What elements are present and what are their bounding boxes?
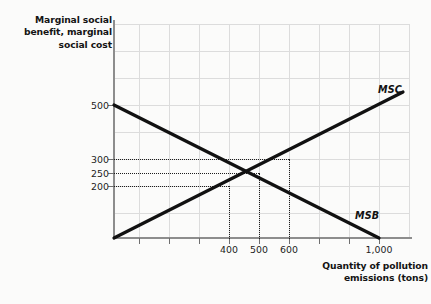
msb-curve-label: MSB (355, 210, 379, 221)
y-tick-label-500: 500 (69, 100, 109, 111)
y-tick-label-200: 200 (69, 181, 109, 192)
x-axis-title: Quantity of pollution emissions (tons) (300, 260, 428, 285)
curves-layer (113, 24, 410, 239)
x-tick-label-1000: 1,000 (359, 244, 399, 255)
plot-area: 500 300 250 200 400 500 600 1,000 MSC MS… (113, 24, 410, 239)
y-tick-label-250: 250 (69, 168, 109, 179)
y-tick-label-300: 300 (69, 154, 109, 165)
x-tick-label-600: 600 (269, 244, 309, 255)
msc-curve-label: MSC (378, 84, 402, 95)
y-axis-title: Marginal social benefit, marginal social… (4, 14, 112, 51)
